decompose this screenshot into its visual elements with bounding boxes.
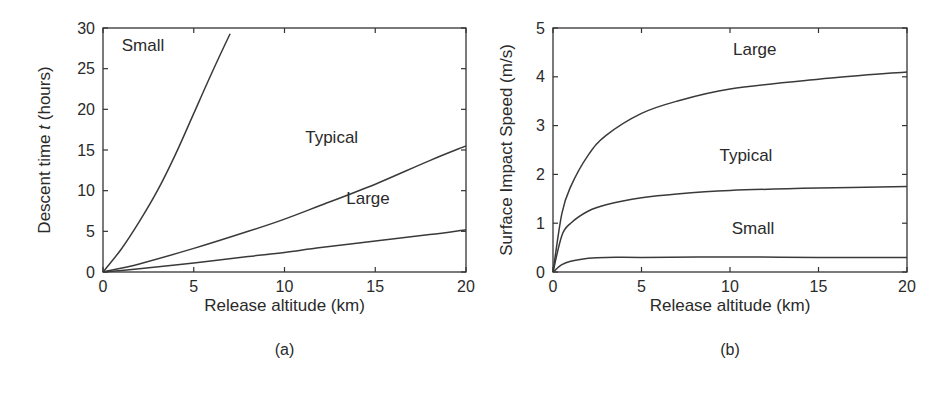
y-tick-label: 0 xyxy=(86,264,95,281)
curve-label-large: Large xyxy=(733,40,776,59)
y-tick-label: 2 xyxy=(536,166,545,183)
curve-large xyxy=(553,72,907,272)
x-tick-label: 20 xyxy=(898,278,916,295)
panel-b-y-axis-label: Surface Impact Speed (m/s) xyxy=(497,44,516,256)
y-tick-label: 25 xyxy=(77,60,95,77)
x-tick-label: 0 xyxy=(99,278,108,295)
x-tick-label: 15 xyxy=(810,278,828,295)
panel-a-descent-time: 05101520051015202530 SmallTypicalLarge R… xyxy=(35,20,475,359)
figure: 05101520051015202530 SmallTypicalLarge R… xyxy=(0,0,948,396)
x-tick-label: 20 xyxy=(457,278,475,295)
x-tick-label: 10 xyxy=(276,278,294,295)
panel-a-caption: (a) xyxy=(275,341,295,358)
y-tick-label: 30 xyxy=(77,20,95,37)
curve-label-typical: Typical xyxy=(719,146,772,165)
y-tick-label: 4 xyxy=(536,68,545,85)
y-label-text: Descent time xyxy=(35,130,54,234)
x-tick-label: 10 xyxy=(721,278,739,295)
curve-large xyxy=(103,230,466,272)
x-tick-label: 0 xyxy=(549,278,558,295)
curve-small xyxy=(103,34,230,272)
y-tick-label: 15 xyxy=(77,142,95,159)
y-label-units: (hours) xyxy=(35,66,54,125)
panel-a-y-axis-label: Descent time t (hours) xyxy=(35,66,54,233)
panel-b-curves xyxy=(553,72,907,272)
y-tick-label: 1 xyxy=(536,215,545,232)
panel-b-impact-speed: 05101520012345 LargeTypicalSmall Release… xyxy=(497,20,916,359)
panel-b-caption: (b) xyxy=(720,341,740,358)
x-tick-label: 5 xyxy=(637,278,646,295)
panel-a-x-axis-label: Release altitude (km) xyxy=(204,296,365,315)
y-tick-label: 5 xyxy=(536,20,545,37)
panel-a-curves xyxy=(103,34,466,272)
curve-label-small: Small xyxy=(122,36,165,55)
curve-typical xyxy=(553,187,907,272)
y-tick-label: 20 xyxy=(77,101,95,118)
panel-b-curve-labels: LargeTypicalSmall xyxy=(719,40,776,238)
panel-b-x-axis-label: Release altitude (km) xyxy=(650,296,811,315)
curve-label-typical: Typical xyxy=(305,128,358,147)
y-tick-label: 5 xyxy=(86,223,95,240)
y-tick-label: 0 xyxy=(536,264,545,281)
y-tick-label: 10 xyxy=(77,182,95,199)
panel-a-frame xyxy=(103,28,466,272)
x-tick-label: 15 xyxy=(366,278,384,295)
y-tick-label: 3 xyxy=(536,117,545,134)
curve-label-large: Large xyxy=(346,189,389,208)
curve-label-small: Small xyxy=(732,219,775,238)
x-tick-label: 5 xyxy=(189,278,198,295)
